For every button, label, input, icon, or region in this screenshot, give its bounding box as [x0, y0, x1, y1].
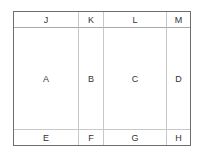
cell-l: L [104, 12, 167, 28]
layout-grid: J K L M A B C D E F G H [13, 11, 191, 146]
cell-k: K [79, 12, 104, 28]
cell-d: D [167, 28, 190, 130]
cell-b: B [79, 28, 104, 130]
cell-e: E [14, 130, 79, 145]
cell-a: A [14, 28, 79, 130]
cell-h: H [167, 130, 190, 145]
cell-c: C [104, 28, 167, 130]
cell-g: G [104, 130, 167, 145]
cell-m: M [167, 12, 190, 28]
cell-j: J [14, 12, 79, 28]
cell-f: F [79, 130, 104, 145]
